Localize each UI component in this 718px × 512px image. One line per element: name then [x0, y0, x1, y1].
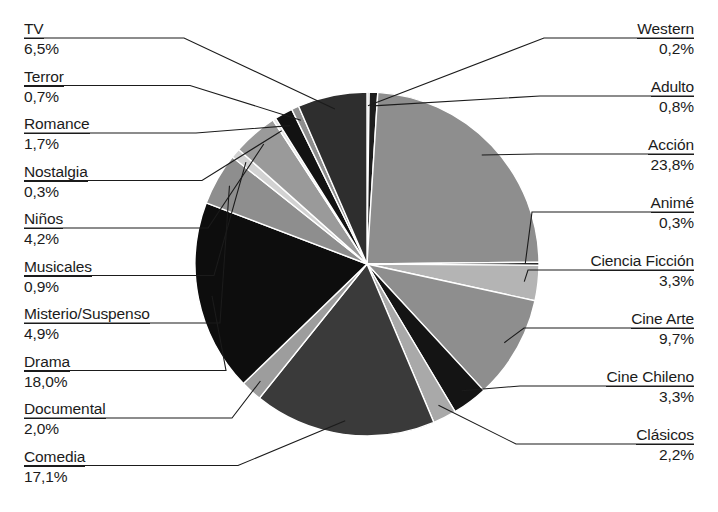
pie-label-cine-chileno: Cine Chileno3,3% [606, 368, 694, 405]
pie-slices-group [195, 92, 539, 436]
pie-label-name: Adulto [651, 78, 694, 97]
pie-label-name: Documental [24, 400, 106, 419]
pie-label-name: TV [24, 20, 44, 39]
pie-label-percent: 6,5% [24, 40, 59, 57]
pie-label-terror: Terror0,7% [24, 68, 64, 105]
pie-label-name: Misterio/Suspenso [24, 305, 150, 324]
pie-label-western: Western0,2% [637, 20, 694, 57]
pie-label-misterio-suspenso: Misterio/Suspenso4,9% [24, 305, 150, 342]
pie-label-percent: 0,9% [24, 278, 92, 295]
pie-label-cine-arte: Cine Arte9,7% [631, 310, 694, 347]
pie-label-name: Niños [24, 210, 63, 229]
pie-label-percent: 17,1% [24, 468, 85, 485]
pie-slice [367, 92, 539, 264]
pie-label-percent: 3,3% [606, 388, 694, 405]
pie-label-percent: 18,0% [24, 373, 70, 390]
pie-label-percent: 4,9% [24, 325, 150, 342]
pie-label-percent: 0,2% [637, 40, 694, 57]
pie-label-name: Nostalgia [24, 163, 88, 182]
pie-label-percent: 9,7% [631, 330, 694, 347]
pie-label-tv: TV6,5% [24, 20, 59, 57]
pie-label-name: Acción [648, 136, 694, 155]
pie-label-name: Drama [24, 353, 70, 372]
pie-label-musicales: Musicales0,9% [24, 258, 92, 295]
pie-label-percent: 4,2% [24, 230, 63, 247]
pie-label-name: Clásicos [636, 426, 694, 445]
pie-label-anim-: Animé0,3% [651, 194, 694, 231]
pie-label-percent: 0,8% [651, 98, 694, 115]
pie-label-name: Musicales [24, 258, 92, 277]
pie-label-percent: 0,3% [651, 214, 694, 231]
pie-label-name: Western [637, 20, 694, 39]
pie-label-adulto: Adulto0,8% [651, 78, 694, 115]
pie-label-ciencia-ficci-n: Ciencia Ficción3,3% [590, 252, 694, 289]
pie-label-percent: 2,0% [24, 420, 106, 437]
pie-label-percent: 0,3% [24, 183, 88, 200]
pie-label-percent: 1,7% [24, 135, 90, 152]
pie-label-documental: Documental2,0% [24, 400, 106, 437]
pie-label-drama: Drama18,0% [24, 353, 70, 390]
pie-label-name: Animé [651, 194, 694, 213]
pie-label-name: Comedia [24, 448, 85, 467]
pie-label-name: Cine Arte [631, 310, 694, 329]
pie-label-percent: 23,8% [648, 156, 694, 173]
pie-label-cl-sicos: Clásicos2,2% [636, 426, 694, 463]
pie-label-name: Romance [24, 115, 90, 134]
leader-line [24, 38, 335, 109]
pie-chart-figure: TV6,5%Terror0,7%Romance1,7%Nostalgia0,3%… [0, 0, 718, 512]
pie-label-acci-n: Acción23,8% [648, 136, 694, 173]
pie-label-percent: 2,2% [636, 446, 694, 463]
pie-label-name: Cine Chileno [606, 368, 694, 387]
pie-label-romance: Romance1,7% [24, 115, 90, 152]
pie-label-percent: 0,7% [24, 88, 64, 105]
pie-label-ni-os: Niños4,2% [24, 210, 63, 247]
pie-label-percent: 3,3% [590, 272, 694, 289]
pie-label-comedia: Comedia17,1% [24, 448, 85, 485]
pie-label-name: Terror [24, 68, 64, 87]
pie-label-nostalgia: Nostalgia0,3% [24, 163, 88, 200]
pie-label-name: Ciencia Ficción [590, 252, 694, 271]
